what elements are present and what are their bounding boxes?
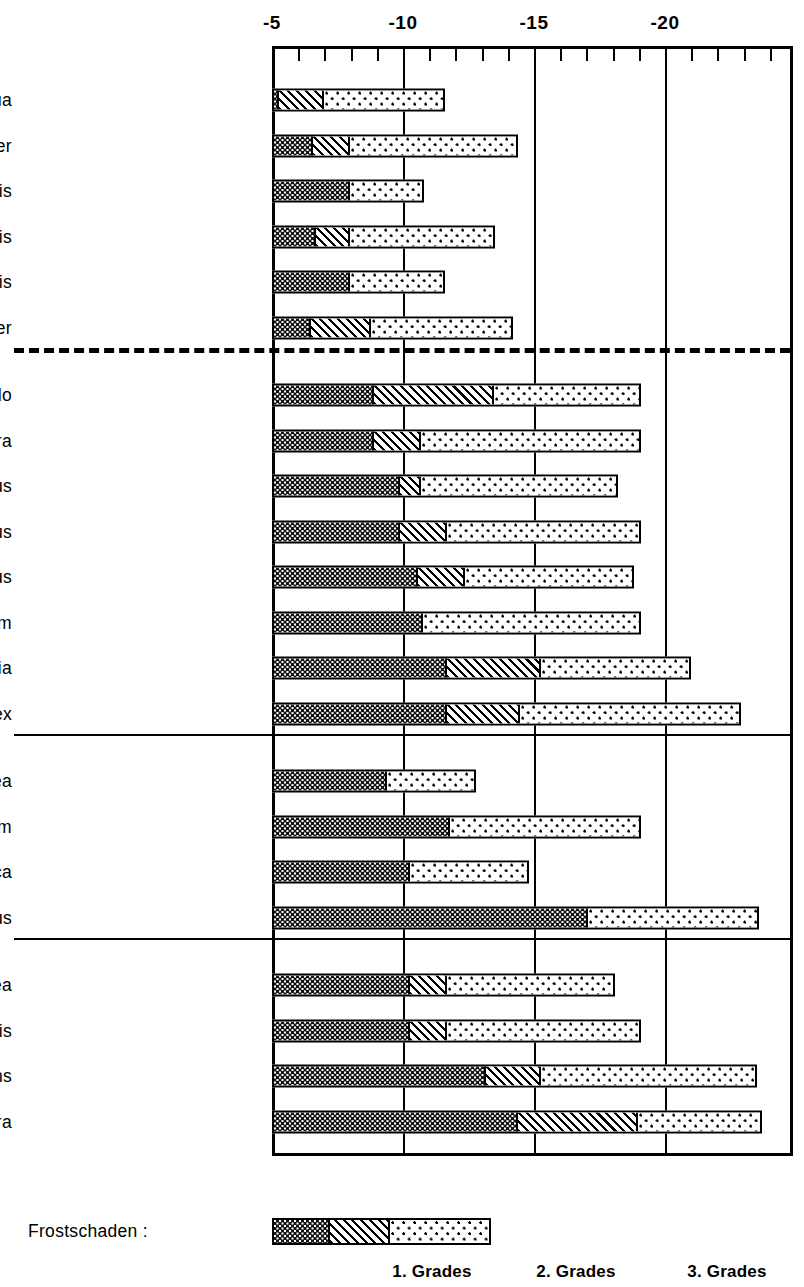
x-axis-tick [377,46,379,61]
group-separator-dashed [14,348,790,353]
plot-border-bottom [272,1153,793,1156]
bar-segment-grade-3 [494,386,639,405]
species-label: Rosmarinus officinalis [0,272,12,293]
stacked-bar [272,657,691,680]
x-axis-tick [586,46,588,61]
bar-segment-grade-1 [274,431,374,450]
bar-segment-grade-2 [279,91,324,110]
bar-segment-grade-2 [374,386,495,405]
group-separator-solid [14,734,793,736]
x-axis-tick [613,46,615,61]
legend-swatch-grade-1 [274,1220,330,1243]
stacked-bar [272,611,641,634]
legend-caption: 1. Grades [392,1262,471,1282]
stacked-bar [272,520,641,543]
bar-segment-grade-3 [350,136,516,155]
bar-segment-grade-2 [518,1112,639,1131]
stacked-bar [272,134,518,157]
bar-segment-grade-3 [588,908,757,927]
x-axis-tick [272,46,274,61]
bar-segment-grade-3 [387,772,475,791]
group-separator-solid [14,938,793,940]
bar-segment-grade-3 [350,227,493,246]
bar-segment-grade-3 [450,817,640,836]
bar-segment-grade-3 [324,91,443,110]
bar-segment-grade-3 [350,273,443,292]
stacked-bar [272,475,618,498]
bar-segment-grade-1 [274,908,588,927]
stacked-bar [272,180,424,203]
x-axis-tick [455,46,457,61]
bar-segment-grade-1 [274,817,450,836]
x-axis-tick [429,46,431,61]
legend-swatch-grade-3 [390,1220,489,1243]
species-label: Viburnum tinus [0,521,12,542]
bar-segment-grade-1 [274,273,350,292]
species-label: Laurus nobilis [0,181,12,202]
bar-segment-grade-3 [421,431,640,450]
bar-segment-grade-1 [274,477,400,496]
bar-segment-grade-3 [421,477,616,496]
stacked-bar [272,429,641,452]
species-label: Pistacia lentiscus [0,567,12,588]
bar-segment-grade-3 [447,1021,640,1040]
bar-segment-grade-1 [274,568,418,587]
x-axis-tick [508,46,510,61]
species-label: Spartium junceum [0,612,12,633]
bar-segment-grade-1 [274,863,410,882]
bar-segment-grade-3 [447,976,613,995]
bar-segment-grade-2 [313,136,350,155]
stacked-bar [272,384,641,407]
bar-segment-grade-1 [274,772,387,791]
x-axis-tick [324,46,326,61]
species-label: Rhamnus alaternus [0,476,12,497]
stacked-bar [272,1019,641,1042]
bar-segment-grade-2 [400,477,421,496]
species-label: Phillyrea latifolia [0,658,12,679]
species-label: Ficus carica [0,862,12,883]
bar-segment-grade-2 [418,568,465,587]
species-label: Nerium oleander [0,135,12,156]
species-label: Cedrus deodara [0,1111,12,1132]
x-axis-tick-label: -10 [389,12,418,34]
bar-segment-grade-1 [274,182,350,201]
x-axis-tick [639,46,641,61]
bar-segment-grade-1 [274,1112,518,1131]
bar-segment-grade-2 [400,522,447,541]
species-label: Prunus amygdalus [0,907,12,928]
bar-segment-grade-2 [311,318,371,337]
bar-segment-grade-3 [410,863,527,882]
bar-segment-grade-1 [274,318,311,337]
stacked-bar [272,316,513,339]
species-label: Punica granatum [0,816,12,837]
stacked-bar [272,770,476,793]
bar-segment-grade-3 [520,704,739,723]
species-label: Arbutus unedo [0,385,12,406]
stacked-bar [272,815,641,838]
legend-swatch-grade-2 [330,1220,391,1243]
bar-segment-grade-3 [638,1112,760,1131]
stacked-bar [272,566,634,589]
stacked-bar [272,89,445,112]
frost-damage-chart: -5-10-15-20 Ceratonia siliquaNerium olea… [0,0,804,1287]
legend-caption: 3. Grades [687,1262,766,1282]
bar-segment-grade-1 [274,136,313,155]
x-axis-tick [744,46,746,61]
species-label: Pinus pinea [0,975,12,996]
species-label: Quercus suber [0,317,12,338]
gridline [665,46,667,1156]
species-label: Myrtus communis [0,226,12,247]
stacked-bar [272,974,615,997]
bar-segment-grade-2 [410,1021,447,1040]
x-axis-tick [691,46,693,61]
bar-segment-grade-2 [316,227,350,246]
bar-segment-grade-1 [274,976,410,995]
stacked-bar [272,271,445,294]
stacked-bar [272,1110,762,1133]
x-axis-tick-label: -20 [651,12,680,34]
x-axis-tick [717,46,719,61]
legend-caption: 2. Grades [536,1262,615,1282]
stacked-bar [272,906,759,929]
bar-segment-grade-2 [447,704,520,723]
species-label: Ceratonia siliqua [0,90,12,111]
